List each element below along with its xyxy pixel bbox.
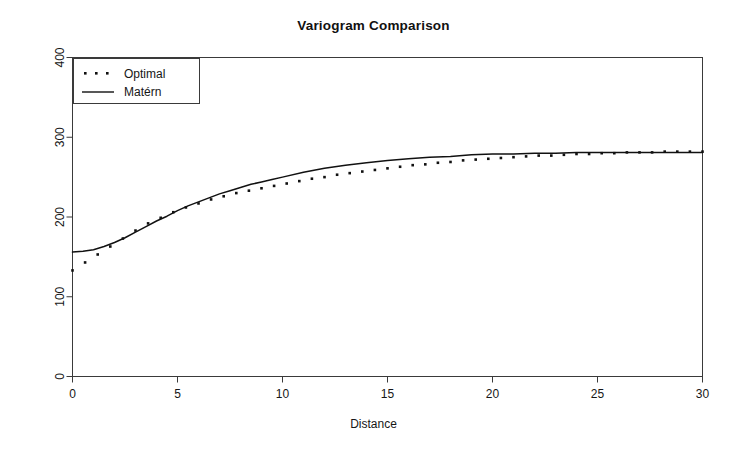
optimal-point <box>537 154 540 157</box>
y-tick-label: 200 <box>53 207 67 227</box>
optimal-point <box>374 169 377 172</box>
optimal-point <box>525 155 528 158</box>
optimal-point <box>248 189 251 192</box>
optimal-point <box>348 172 351 175</box>
y-tick-label: 400 <box>53 47 67 67</box>
optimal-point <box>71 269 74 272</box>
legend-label-matern: Matérn <box>124 85 161 99</box>
optimal-point <box>651 151 654 154</box>
optimal-point <box>663 150 666 153</box>
optimal-point <box>185 206 188 209</box>
optimal-point <box>172 211 175 214</box>
x-axis-label: Distance <box>0 417 747 431</box>
optimal-point <box>701 150 704 153</box>
x-tick-label: 0 <box>69 387 76 401</box>
optimal-point <box>487 157 490 160</box>
optimal-point <box>273 185 276 188</box>
x-tick-label: 5 <box>174 387 181 401</box>
optimal-point <box>222 195 225 198</box>
x-axis-ticks: 051015202530 <box>69 377 709 401</box>
optimal-point <box>285 182 288 185</box>
optimal-point <box>638 151 641 154</box>
optimal-point <box>437 161 440 164</box>
optimal-point <box>588 153 591 156</box>
optimal-point <box>96 253 99 256</box>
optimal-point <box>512 156 515 159</box>
optimal-point <box>336 173 339 176</box>
x-tick-label: 30 <box>696 387 710 401</box>
y-tick-label: 300 <box>53 127 67 147</box>
plot-canvas: 051015202530 0100200300400 Optimal Matér… <box>0 0 747 459</box>
optimal-point <box>298 180 301 183</box>
legend-dot <box>95 72 98 75</box>
series-optimal-dots <box>71 150 704 271</box>
y-axis-ticks: 0100200300400 <box>53 47 73 380</box>
legend-dot <box>106 72 109 75</box>
optimal-point <box>626 151 629 154</box>
legend: Optimal Matérn <box>74 59 200 104</box>
legend-label-optimal: Optimal <box>124 67 165 81</box>
optimal-point <box>563 154 566 157</box>
optimal-point <box>235 192 238 195</box>
optimal-point <box>462 159 465 162</box>
optimal-point <box>399 165 402 168</box>
optimal-point <box>424 163 427 166</box>
optimal-point <box>197 202 200 205</box>
optimal-point <box>361 170 364 173</box>
optimal-point <box>147 222 150 225</box>
optimal-point <box>84 261 87 264</box>
optimal-point <box>323 176 326 179</box>
optimal-point <box>411 164 414 167</box>
optimal-point <box>550 154 553 157</box>
x-tick-label: 25 <box>591 387 605 401</box>
x-tick-label: 10 <box>276 387 290 401</box>
optimal-point <box>109 245 112 248</box>
optimal-point <box>689 150 692 153</box>
x-tick-label: 20 <box>486 387 500 401</box>
optimal-point <box>575 153 578 156</box>
optimal-point <box>676 150 679 153</box>
optimal-point <box>122 237 125 240</box>
optimal-point <box>386 167 389 170</box>
variogram-chart-figure: Variogram Comparison 051015202530 010020… <box>0 0 747 459</box>
optimal-point <box>449 161 452 164</box>
optimal-point <box>260 187 263 190</box>
optimal-point <box>311 177 314 180</box>
optimal-point <box>210 198 213 201</box>
optimal-point <box>600 152 603 155</box>
y-tick-label: 0 <box>53 373 67 380</box>
x-tick-label: 15 <box>381 387 395 401</box>
optimal-point <box>613 152 616 155</box>
optimal-point <box>474 158 477 161</box>
legend-dot <box>84 72 87 75</box>
optimal-point <box>134 229 137 232</box>
y-tick-label: 100 <box>53 286 67 306</box>
optimal-point <box>500 157 503 160</box>
optimal-point <box>159 217 162 220</box>
